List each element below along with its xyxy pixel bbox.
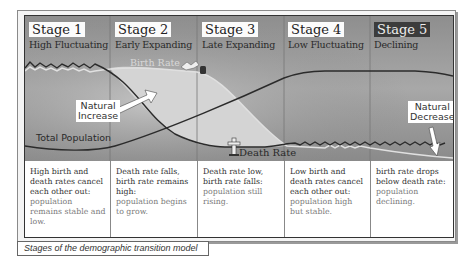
diagram-frame: Stage 1 High Fluctuating Stage 2 Early E…	[17, 10, 456, 242]
stage-1-header: Stage 1 High Fluctuating	[29, 19, 108, 50]
stage-descriptions: High birth and death rates cancel each o…	[25, 161, 453, 237]
stage-1-subtitle: High Fluctuating	[29, 39, 108, 50]
stage-5-header: Stage 5 Declining	[374, 19, 430, 50]
stage-1-title: Stage 1	[29, 22, 85, 37]
stage-1-description: High birth and death rates cancel each o…	[25, 161, 110, 237]
stage-1-outcome: population remains stable and low.	[30, 197, 106, 227]
stage-4-subtitle: Low Fluctuating	[288, 39, 364, 50]
diagram-inner: Stage 1 High Fluctuating Stage 2 Early E…	[24, 15, 454, 238]
stage-2-title: Stage 2	[115, 22, 171, 37]
figure-caption: Stages of the demographic transition mod…	[17, 241, 209, 256]
stage-2-header: Stage 2 Early Expanding	[115, 19, 192, 50]
death-rate-label: Death Rate	[239, 147, 296, 158]
stage-3-description: Death rate low, birth rate falls: popula…	[197, 161, 284, 237]
stage-3-subtitle: Late Expanding	[202, 39, 275, 50]
stage-5-outcome: population declining.	[376, 187, 449, 207]
chart-area: Stage 1 High Fluctuating Stage 2 Early E…	[25, 16, 453, 161]
natural-increase-label: Natural Increase	[76, 100, 120, 122]
stage-3-title: Stage 3	[202, 22, 258, 37]
stage-4-header: Stage 4 Low Fluctuating	[288, 19, 364, 50]
stage-2-subtitle: Early Expanding	[115, 39, 192, 50]
stage-3-outcome: population still rising.	[203, 187, 280, 207]
stage-2-description: Death rate falls, birth rate remains hig…	[110, 161, 197, 237]
birth-rate-label: Birth Rate	[130, 57, 180, 68]
stage-2-outcome: population begins to grow.	[116, 197, 193, 217]
natural-decrease-label: Natural Decrease	[408, 101, 454, 123]
total-population-label: Total Population	[36, 132, 111, 143]
stage-5-subtitle: Declining	[374, 39, 430, 50]
stage-4-description: Low birth and death rates cancel each ot…	[284, 161, 370, 237]
stage-5-title: Stage 5	[374, 22, 430, 37]
stage-4-outcome: population high but stable.	[290, 197, 366, 217]
stage-4-title: Stage 4	[288, 22, 344, 37]
stage-3-header: Stage 3 Late Expanding	[202, 19, 275, 50]
stage-5-description: birth rate drops below death rate: popul…	[370, 161, 453, 237]
